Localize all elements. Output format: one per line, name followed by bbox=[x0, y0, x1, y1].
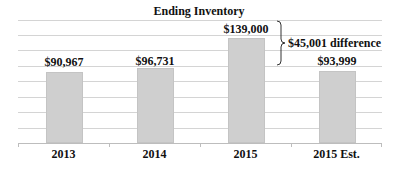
curly-brace-icon bbox=[276, 20, 288, 66]
bar-2013 bbox=[46, 72, 83, 143]
ending-inventory-chart: Ending Inventory $90,967 $96,731 $139,00… bbox=[0, 0, 398, 172]
category-label-2015-est: 2015 Est. bbox=[291, 147, 382, 162]
value-label-2014: $96,731 bbox=[110, 54, 200, 69]
category-label-2015: 2015 bbox=[200, 147, 291, 162]
gridline bbox=[18, 20, 382, 21]
category-label-2014: 2014 bbox=[109, 147, 200, 162]
category-label-2013: 2013 bbox=[18, 147, 109, 162]
value-label-2015-est: $93,999 bbox=[292, 54, 382, 69]
difference-annotation: $45,001 difference bbox=[288, 36, 381, 51]
bar-2015-est bbox=[319, 71, 356, 143]
bar-2015 bbox=[228, 38, 265, 143]
chart-title: Ending Inventory bbox=[0, 4, 398, 19]
bar-2014 bbox=[137, 68, 174, 143]
value-label-2013: $90,967 bbox=[19, 55, 109, 70]
